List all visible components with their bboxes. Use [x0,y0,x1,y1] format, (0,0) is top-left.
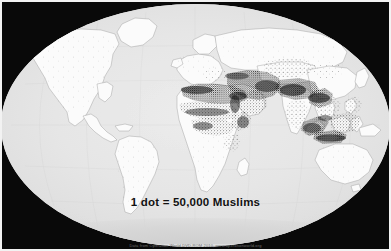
land-caribbean [115,124,133,131]
source-credit-label: Data from Operation World DVD-ROM 2010, … [129,243,261,248]
land-new-guinea [359,124,381,136]
legend: 1 dot = 50,000 Muslims [0,192,391,210]
land-central-america [83,114,117,142]
land-usa-east [97,82,113,102]
source-credit: Data from Operation World DVD-ROM 2010, … [0,233,391,251]
landmass-layer [1,4,390,247]
land-japan [355,68,369,88]
land-borneo [331,116,351,132]
land-east-asia [307,66,357,100]
land-sumatra [305,120,325,134]
land-scandinavia [193,34,217,54]
land-philippines [345,98,357,114]
land-greenland [117,18,157,47]
land-madagascar [237,158,249,176]
land-australia [315,144,373,184]
land-java [319,134,341,142]
world-map-ellipse [1,4,390,247]
land-new-zealand [376,168,387,184]
legend-label: 1 dot = 50,000 Muslims [131,196,260,208]
land-southeast-asia [315,98,335,122]
land-tasmania [351,184,361,192]
land-europe [177,54,223,86]
map-screenshot: 1 dot = 50,000 Muslims Data from Operati… [0,0,391,251]
